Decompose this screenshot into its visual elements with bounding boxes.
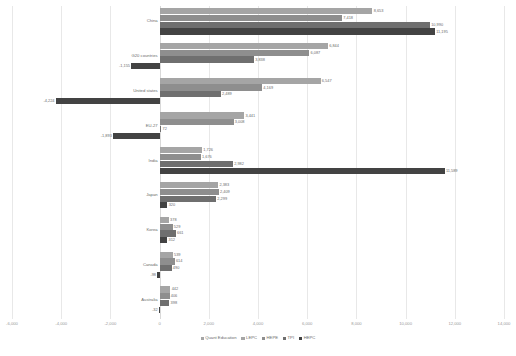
bar-united-states-series-1[interactable]: [160, 84, 263, 90]
bar-value-label: 6,844: [329, 44, 339, 48]
legend-label: HEPC: [304, 336, 316, 340]
bar-value-label: 320: [169, 203, 176, 207]
legend-item-quant-education[interactable]: Quant Education: [201, 336, 237, 340]
bar-eu-27-series-2[interactable]: [160, 126, 162, 132]
gridline: [504, 6, 505, 319]
bar-value-label: 6,547: [322, 79, 332, 83]
bar-australia-series-0[interactable]: [160, 286, 171, 292]
category-label-korea: Korea: [146, 228, 157, 232]
x-axis-tick-label: 2,000: [204, 322, 214, 326]
bar-group: 1,7261,6762,98211,589: [12, 147, 504, 173]
bar-united-states-series-3[interactable]: [56, 98, 160, 104]
x-axis-tick-label: -4,000: [55, 322, 67, 326]
bar-india-series-1[interactable]: [160, 154, 201, 160]
bar-korea-series-3[interactable]: [160, 237, 168, 243]
bar-india-series-2[interactable]: [160, 161, 233, 167]
bar-united-states-series-2[interactable]: [160, 91, 221, 97]
x-axis-tick-label: 8,000: [351, 322, 361, 326]
bar-value-label: -4,224: [43, 99, 54, 103]
bar-china-series-3[interactable]: [160, 28, 435, 34]
category-label-japan: Japan: [146, 193, 157, 197]
x-axis: -6,000-4,000-2,00002,0004,0006,0008,0001…: [12, 319, 504, 331]
bar-china-series-2[interactable]: [160, 22, 430, 28]
bar-value-label: 4,169: [263, 86, 273, 90]
bar-value-label: 2,982: [234, 162, 244, 166]
category-label-china: China: [147, 19, 158, 23]
bar-g20-countries-series-2[interactable]: [160, 56, 254, 62]
bar-group: 2,3832,4092,299320: [12, 182, 504, 208]
bar-india-series-3[interactable]: [160, 168, 445, 174]
bar-value-label: 2,489: [222, 92, 232, 96]
x-axis-tick-label: -6,000: [6, 322, 18, 326]
x-axis-tick-label: 4,000: [253, 322, 263, 326]
bar-value-label: -32: [152, 308, 158, 312]
legend-item-hepc[interactable]: HEPC: [299, 336, 315, 340]
bar-japan-series-2[interactable]: [160, 196, 217, 202]
bar-united-states-series-0[interactable]: [160, 78, 321, 84]
bar-value-label: 2,409: [220, 190, 230, 194]
legend-item-lepc[interactable]: LEPC: [241, 336, 257, 340]
bar-value-label: 1,676: [202, 155, 212, 159]
bar-canada-series-0[interactable]: [160, 252, 173, 258]
bar-group: 8,6537,41810,99011,195: [12, 8, 504, 34]
category-label-g20-countries: G20 countries: [132, 54, 158, 58]
bar-china-series-1[interactable]: [160, 15, 342, 21]
bar-japan-series-1[interactable]: [160, 189, 219, 195]
legend-label: HEPE: [267, 336, 278, 340]
legend-swatch-icon: [299, 337, 302, 340]
bar-canada-series-2[interactable]: [160, 265, 172, 271]
bar-group: 3,4413,00872-1,893: [12, 112, 504, 138]
chart-legend: Quant EducationLEPCHEPETPIHEPC: [0, 336, 516, 340]
bar-g20-countries-series-0[interactable]: [160, 43, 328, 49]
bar-value-label: 442: [172, 288, 179, 292]
bar-eu-27-series-0[interactable]: [160, 112, 245, 118]
category-label-united-states: United states: [133, 89, 157, 93]
legend-item-hepe[interactable]: HEPE: [262, 336, 278, 340]
bar-value-label: 1,726: [203, 148, 213, 152]
bar-group: 539614490-98: [12, 252, 504, 278]
bar-value-label: 398: [171, 301, 178, 305]
x-axis-tick-label: 12,000: [448, 322, 461, 326]
bar-value-label: 11,195: [436, 30, 448, 34]
bar-value-label: 661: [177, 231, 184, 235]
bar-canada-series-3[interactable]: [157, 272, 159, 278]
bar-australia-series-3[interactable]: [159, 307, 160, 313]
bar-eu-27-series-1[interactable]: [160, 119, 234, 125]
bar-value-label: 539: [174, 253, 181, 257]
bar-group: 6,8446,0873,838-1,155: [12, 43, 504, 69]
bar-g20-countries-series-1[interactable]: [160, 50, 310, 56]
x-axis-tick-label: -2,000: [104, 322, 116, 326]
legend-item-tpi[interactable]: TPI: [283, 336, 294, 340]
legend-label: TPI: [288, 336, 295, 340]
bar-value-label: -1,155: [119, 64, 130, 68]
bar-group: 378529661312: [12, 217, 504, 243]
bar-group: 442406398-32: [12, 286, 504, 312]
bar-japan-series-0[interactable]: [160, 182, 219, 188]
bar-value-label: -1,893: [101, 134, 112, 138]
bar-value-label: 614: [176, 259, 183, 263]
bar-value-label: -98: [150, 273, 156, 277]
bar-japan-series-3[interactable]: [160, 202, 168, 208]
x-axis-tick-label: 6,000: [302, 322, 312, 326]
x-axis-tick-label: 14,000: [498, 322, 511, 326]
bar-canada-series-1[interactable]: [160, 258, 175, 264]
bar-korea-series-2[interactable]: [160, 230, 176, 236]
bar-value-label: 7,418: [343, 16, 353, 20]
bar-china-series-0[interactable]: [160, 8, 373, 14]
legend-swatch-icon: [241, 337, 244, 340]
bar-value-label: 3,008: [235, 120, 245, 124]
bar-value-label: 72: [163, 127, 167, 131]
bar-value-label: 8,653: [374, 9, 384, 13]
legend-label: LEPC: [246, 336, 257, 340]
bar-australia-series-2[interactable]: [160, 300, 170, 306]
legend-swatch-icon: [262, 337, 265, 340]
bar-korea-series-0[interactable]: [160, 217, 169, 223]
bar-value-label: 10,990: [431, 23, 443, 27]
bar-value-label: 3,838: [255, 58, 265, 62]
bar-eu-27-series-3[interactable]: [113, 133, 160, 139]
category-label-eu-27: EU-27: [146, 124, 158, 128]
bar-korea-series-1[interactable]: [160, 224, 173, 230]
bar-australia-series-1[interactable]: [160, 293, 170, 299]
bar-g20-countries-series-3[interactable]: [131, 63, 159, 69]
bar-india-series-0[interactable]: [160, 147, 202, 153]
